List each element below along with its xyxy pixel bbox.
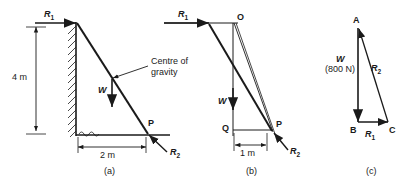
label-vertex-b-c: B xyxy=(350,125,357,135)
caption-panel-b: (b) xyxy=(246,166,257,176)
label-r2-b: R2 xyxy=(290,146,300,158)
label-r1-b: R1 xyxy=(178,9,188,21)
label-base-dimension-a: 2 m xyxy=(100,150,115,160)
label-r1-c: R1 xyxy=(365,129,375,141)
reaction-r2-arrow-b xyxy=(274,133,288,150)
wall-hatching-a xyxy=(68,26,76,137)
label-weight-c: W xyxy=(336,54,345,64)
ladder-a xyxy=(77,23,148,134)
label-r1-a: R1 xyxy=(44,9,54,21)
label-r2-c: R2 xyxy=(371,63,381,75)
label-point-q-b: Q xyxy=(222,123,229,133)
label-weight-value-c: (800 N) xyxy=(325,64,355,74)
label-arm-dimension-b: 1 m xyxy=(240,148,255,158)
label-point-p-a: P xyxy=(148,118,154,128)
label-vertex-c-c: C xyxy=(389,125,396,135)
label-point-o-b: O xyxy=(237,12,244,22)
reaction-r2-arrow-a xyxy=(149,135,167,152)
label-weight-a: W xyxy=(98,85,107,95)
label-r2-a: R2 xyxy=(170,147,180,159)
label-centre-of-gravity-a: Centre ofgravity xyxy=(151,56,188,78)
label-height-dimension-a: 4 m xyxy=(12,72,27,82)
cog-leader-line-a xyxy=(113,66,148,78)
vector-r2-ca-c xyxy=(359,29,388,122)
caption-panel-a: (a) xyxy=(104,166,115,176)
label-point-p-b: P xyxy=(276,119,282,129)
label-weight-b: W xyxy=(218,96,227,106)
caption-panel-c: (c) xyxy=(366,166,377,176)
figure-line-art xyxy=(0,0,414,187)
label-vertex-a-c: A xyxy=(353,15,360,25)
ladder-statics-figure: R1 4 m 2 m W Centre ofgravity P R2 (a) R… xyxy=(0,0,414,187)
